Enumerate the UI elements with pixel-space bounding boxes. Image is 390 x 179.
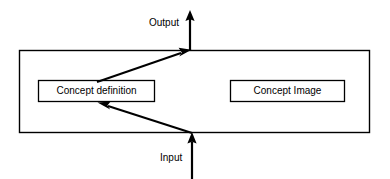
concept-definition-label: Concept definition <box>38 85 155 97</box>
output-label: Output <box>149 17 179 29</box>
concept-image-label: Concept Image <box>230 85 345 97</box>
input-arrow-head <box>187 132 196 144</box>
input-label: Input <box>160 152 182 164</box>
diagram-root: Output Input Concept definition Concept … <box>0 0 390 179</box>
